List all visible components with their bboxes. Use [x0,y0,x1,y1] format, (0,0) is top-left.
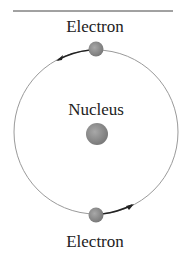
nucleus-label: Nucleus [68,100,124,119]
top-motion-arrow [58,50,90,60]
nucleus-particle [86,123,108,145]
top-electron-particle [89,42,104,57]
bottom-electron-label: Electron [66,232,124,251]
top-electron-label: Electron [66,17,124,36]
bottom-arrowhead-icon [126,204,134,210]
atom-diagram: Electron Nucleus Electron [0,0,186,264]
bottom-electron-particle [89,208,104,223]
